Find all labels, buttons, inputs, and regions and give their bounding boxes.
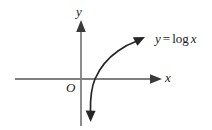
x-axis-arrowhead (150, 74, 162, 84)
equation-label: y=logx (155, 32, 197, 45)
y-axis-label: y (76, 5, 82, 18)
y-axis-arrowhead (76, 20, 86, 32)
graph-canvas (0, 0, 212, 130)
x-axis-label: x (165, 71, 171, 84)
log-curve (90, 41, 136, 112)
equation-operator: = (161, 31, 172, 46)
log-function-graph: y x O y=logx (0, 0, 212, 130)
equation-lhs: y (155, 31, 161, 46)
origin-label: O (66, 81, 75, 94)
curve-lower-arrowhead (86, 111, 96, 123)
equation-argument: x (191, 31, 197, 46)
equation-function: log (172, 31, 189, 46)
